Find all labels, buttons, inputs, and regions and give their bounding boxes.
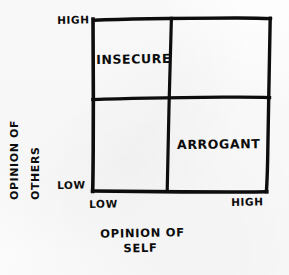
quadrant-divider-horizontal — [93, 97, 270, 99]
x-axis-tick-high: HIGH — [231, 196, 264, 207]
x-axis-tick-low: LOW — [89, 198, 118, 209]
axis-bottom-border — [93, 191, 267, 192]
quadrant-divider-vertical — [167, 18, 171, 191]
quadrant-label-insecure: INSECURE — [96, 53, 171, 67]
y-axis-title-line-1: OPINION OF — [9, 120, 20, 200]
y-axis-title: OPINION OF OTHERS — [0, 0, 70, 200]
axis-right-border — [266, 18, 270, 191]
quadrant-label-arrogant: ARROGANT — [177, 138, 260, 151]
axis-top-border — [94, 18, 271, 20]
x-axis-title: OPINION OF SELF — [0, 226, 289, 255]
quadrant-matrix-frame — [93, 19, 271, 191]
y-axis-title-line-2: OTHERS — [30, 146, 41, 200]
axis-left-border — [93, 19, 94, 191]
sketch-diagram-page: INSECURE ARROGANT HIGH LOW LOW HIGH OPIN… — [0, 0, 289, 275]
